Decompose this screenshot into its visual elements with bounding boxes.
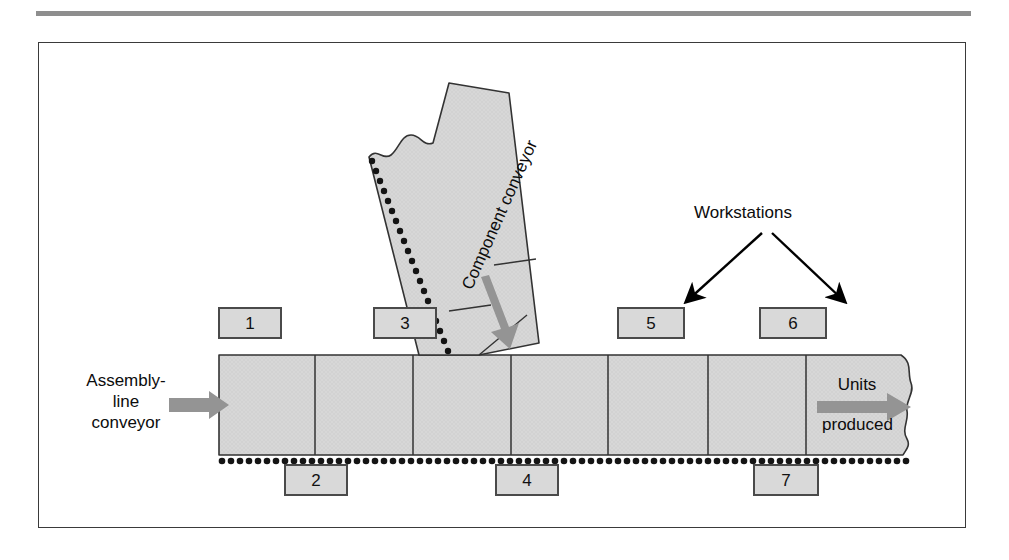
workstation-box-7[interactable]: 7 [753,464,819,496]
figure-frame: 1 2 3 4 5 6 7 [38,42,966,528]
figure-page: 1 2 3 4 5 6 7 Assembly- line conveyor Wo… [0,0,1009,560]
workstation-box-6[interactable]: 6 [759,307,827,339]
units-label: Units [812,374,902,395]
top-horizontal-rule [36,11,971,16]
workstation-box-2[interactable]: 2 [284,464,348,496]
assembly-line-belt-group [219,355,912,464]
workstation-box-1[interactable]: 1 [218,307,282,339]
assembly-line-diagram [39,43,965,527]
assembly-line-conveyor-label: Assembly- line conveyor [56,370,196,433]
produced-label: produced [800,414,915,435]
workstation-box-3[interactable]: 3 [373,307,437,339]
workstations-callout-arrows [687,233,844,301]
workstation-box-4[interactable]: 4 [495,464,559,496]
workstations-callout-arrow-left [687,233,762,301]
assembly-line-belt-body [219,355,912,455]
workstation-box-5[interactable]: 5 [617,307,685,339]
workstations-label: Workstations [658,202,828,223]
workstations-callout-arrow-right [772,233,844,301]
